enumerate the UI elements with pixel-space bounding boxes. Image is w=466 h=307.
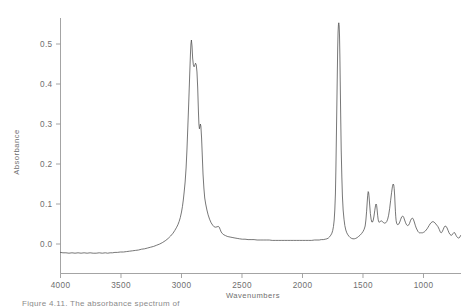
figure-caption: Figure 4.11. The absorbance spectrum of bbox=[22, 299, 180, 307]
y-tick-label: 0.0 bbox=[40, 240, 53, 249]
x-axis-title: Wavenumbers bbox=[226, 291, 280, 300]
x-tick-label: 1000 bbox=[414, 281, 434, 290]
x-tick-label: 1500 bbox=[353, 281, 373, 290]
y-tick-label: 0.4 bbox=[40, 80, 53, 89]
y-tick-label: 0.3 bbox=[40, 120, 53, 129]
spectrum-chart: 0.00.10.20.30.40.5 400035003000250020001… bbox=[0, 0, 466, 307]
x-tick-label: 2000 bbox=[293, 281, 313, 290]
y-tick-label: 0.5 bbox=[40, 40, 53, 49]
x-tick-label: 3500 bbox=[111, 281, 131, 290]
spectrum-trace bbox=[61, 23, 461, 253]
y-axis-title: Absorbance bbox=[12, 129, 21, 175]
figure-container: 0.00.10.20.30.40.5 400035003000250020001… bbox=[0, 0, 466, 307]
x-tick-label: 4000 bbox=[51, 281, 71, 290]
y-tick-label: 0.1 bbox=[40, 200, 53, 209]
y-tick-label: 0.2 bbox=[40, 160, 53, 169]
x-tick-label: 3000 bbox=[172, 281, 192, 290]
y-axis-ticks: 0.00.10.20.30.40.5 bbox=[40, 40, 60, 249]
x-tick-label: 2500 bbox=[232, 281, 252, 290]
x-axis-ticks: 4000350030002500200015001000 bbox=[51, 274, 434, 290]
